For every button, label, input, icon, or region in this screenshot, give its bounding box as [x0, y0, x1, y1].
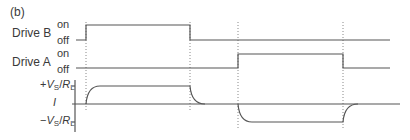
transition-markers [86, 22, 343, 128]
timing-diagram [0, 0, 410, 140]
drive-a-trace [76, 54, 390, 68]
